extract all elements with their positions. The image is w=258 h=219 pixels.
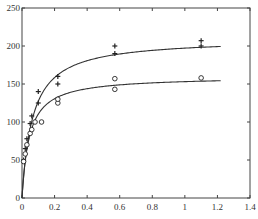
data-points — [21, 38, 204, 164]
plus-marker — [55, 74, 60, 79]
plus-marker — [112, 44, 117, 49]
x-tick-label: 0.8 — [147, 202, 159, 212]
fit-curve-circle — [22, 81, 221, 198]
y-tick-label: 100 — [7, 117, 21, 127]
plus-marker — [55, 82, 60, 87]
x-tick-label: 1.2 — [212, 202, 223, 212]
circle-marker — [23, 152, 28, 157]
y-tick-label: 50 — [11, 155, 21, 165]
circle-marker — [113, 76, 118, 81]
x-tick-label: 0 — [20, 202, 25, 212]
x-tick-label: 0.6 — [114, 202, 126, 212]
circle-marker — [29, 127, 34, 132]
circle-marker — [33, 120, 38, 125]
circle-marker — [113, 87, 118, 92]
y-tick-label: 0 — [16, 193, 21, 203]
x-tick-label: 0.4 — [82, 202, 94, 212]
x-tick-label: 1 — [183, 202, 188, 212]
x-tick-label: 1.4 — [244, 202, 256, 212]
circle-marker — [199, 76, 204, 81]
y-tick-label: 250 — [7, 3, 21, 13]
plus-marker — [199, 38, 204, 43]
circle-marker — [56, 97, 61, 102]
fit-curve-plus — [22, 46, 221, 198]
fit-curves — [22, 46, 221, 198]
plus-marker — [36, 89, 41, 94]
circle-marker — [39, 120, 44, 125]
circle-marker — [21, 159, 26, 164]
x-tick-label: 0.2 — [49, 202, 60, 212]
y-tick-label: 150 — [7, 79, 21, 89]
y-tick-label: 200 — [7, 41, 21, 51]
chart: 00.20.40.60.811.21.4050100150200250 — [0, 0, 258, 219]
circle-marker — [25, 143, 30, 148]
